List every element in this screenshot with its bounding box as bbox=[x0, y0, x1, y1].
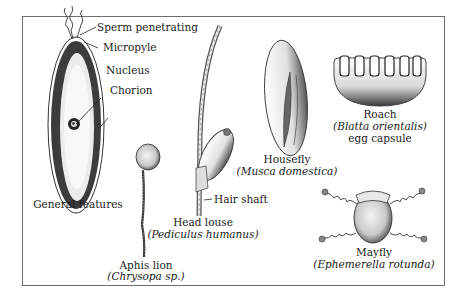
caption-mayfly-scientific: (Ephemerella rotunda) bbox=[313, 258, 434, 270]
housefly-egg-drawing bbox=[260, 38, 312, 157]
insect-eggs-illustration bbox=[0, 0, 463, 301]
caption-roach: Roach bbox=[363, 108, 396, 120]
caption-housefly-scientific: (Musca domestica) bbox=[237, 165, 338, 177]
mayfly-egg-drawing bbox=[319, 188, 427, 243]
caption-aphis-lion-scientific: (Chrysopa sp.) bbox=[107, 270, 184, 282]
aphis-lion-egg-drawing bbox=[136, 144, 160, 257]
label-sperm-penetrating: Sperm penetrating bbox=[97, 21, 198, 33]
head-louse-egg-drawing bbox=[191, 26, 240, 216]
label-micropyle: Micropyle bbox=[103, 41, 157, 53]
roach-egg-capsule-drawing bbox=[334, 56, 426, 106]
caption-head-louse-scientific: (Pediculus humanus) bbox=[147, 228, 258, 240]
label-hair-shaft: Hair shaft bbox=[214, 193, 268, 205]
caption-head-louse: Head louse bbox=[173, 216, 233, 228]
label-chorion: Chorion bbox=[110, 84, 153, 96]
caption-roach-egg-capsule: egg capsule bbox=[348, 132, 412, 144]
label-nucleus: Nucleus bbox=[106, 64, 150, 76]
caption-general-features: General features bbox=[33, 198, 123, 210]
caption-mayfly: Mayfly bbox=[356, 246, 392, 258]
caption-housefly: Housefly bbox=[264, 153, 311, 165]
caption-roach-scientific: (Blatta orientalis) bbox=[333, 120, 427, 132]
general-egg-drawing bbox=[48, 6, 108, 213]
